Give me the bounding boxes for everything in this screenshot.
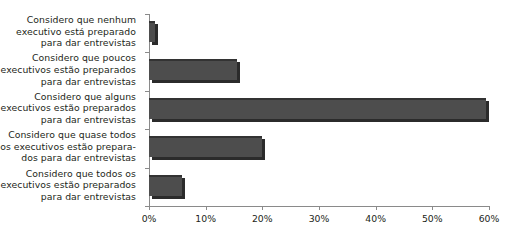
bar-4 bbox=[149, 175, 182, 196]
bar-2 bbox=[149, 98, 486, 119]
category-label-4-line-2: para dar entrevistas bbox=[0, 191, 136, 203]
x-axis-tick-6 bbox=[489, 206, 490, 210]
x-axis-tick-label-0: 0% bbox=[129, 213, 169, 224]
category-label-2: Considero que alguns executivos estão pr… bbox=[0, 91, 136, 126]
category-label-4: Considero que todos os executivos estão … bbox=[0, 168, 136, 203]
y-axis-tick-1 bbox=[145, 52, 149, 53]
x-axis-tick-label-3: 30% bbox=[299, 213, 339, 224]
y-axis-tick-0 bbox=[145, 14, 149, 15]
category-label-3-line-0: Considero que quase todos bbox=[0, 129, 136, 141]
x-axis-tick-label-2: 20% bbox=[242, 213, 282, 224]
x-axis-tick-label-6: 60% bbox=[469, 213, 509, 224]
category-label-4-line-1: executivos estão preparados bbox=[0, 179, 136, 191]
bar-3-face bbox=[149, 136, 262, 157]
category-label-0-line-0: Considero que nenhum bbox=[0, 14, 136, 26]
y-axis-tick-3 bbox=[145, 129, 149, 130]
bar-1-face bbox=[149, 59, 237, 80]
category-label-1-line-0: Considero que poucos bbox=[0, 52, 136, 64]
bar-0 bbox=[149, 21, 155, 42]
y-axis-tick-2 bbox=[145, 91, 149, 92]
category-label-2-line-1: executivos estão preparados bbox=[0, 102, 136, 114]
x-axis-tick-4 bbox=[376, 206, 377, 210]
category-label-1-line-2: para dar entrevistas bbox=[0, 76, 136, 88]
x-axis-tick-3 bbox=[319, 206, 320, 210]
category-label-0: Considero que nenhum executivo está prep… bbox=[0, 14, 136, 49]
category-label-1-line-1: executivos estão preparados bbox=[0, 64, 136, 76]
plot-area: 0% 10% 20% 30% 40% 50% 60% bbox=[149, 14, 489, 206]
y-axis-tick-4 bbox=[145, 168, 149, 169]
category-axis-labels: Considero que nenhum executivo está prep… bbox=[0, 14, 142, 206]
bar-1 bbox=[149, 59, 237, 80]
bar-4-face bbox=[149, 175, 182, 196]
bar-0-face bbox=[149, 21, 155, 42]
category-label-2-line-0: Considero que alguns bbox=[0, 91, 136, 103]
bar-3 bbox=[149, 136, 262, 157]
x-axis-tick-5 bbox=[432, 206, 433, 210]
category-label-4-line-0: Considero que todos os bbox=[0, 168, 136, 180]
category-label-3: Considero que quase todos os executivos … bbox=[0, 129, 136, 164]
x-axis-tick-label-4: 40% bbox=[356, 213, 396, 224]
x-axis-tick-1 bbox=[206, 206, 207, 210]
x-axis-tick-label-1: 10% bbox=[186, 213, 226, 224]
category-label-2-line-2: para dar entrevistas bbox=[0, 114, 136, 126]
bar-2-face bbox=[149, 98, 486, 119]
category-label-0-line-1: executivo está preparado bbox=[0, 26, 136, 38]
category-label-1: Considero que poucos executivos estão pr… bbox=[0, 52, 136, 87]
horizontal-bar-chart: Considero que nenhum executivo está prep… bbox=[0, 0, 523, 243]
x-axis-tick-0 bbox=[149, 206, 150, 210]
category-label-3-line-2: dos para dar entrevistas bbox=[0, 152, 136, 164]
x-axis-tick-label-5: 50% bbox=[412, 213, 452, 224]
category-label-3-line-1: os executivos estão prepara- bbox=[0, 141, 136, 153]
category-label-0-line-2: para dar entrevistas bbox=[0, 37, 136, 49]
x-axis-tick-2 bbox=[262, 206, 263, 210]
